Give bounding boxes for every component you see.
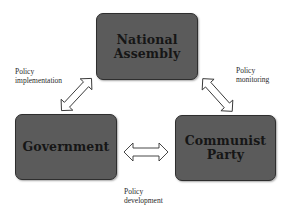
- node-communist-party-line-1: Communist: [185, 134, 266, 148]
- label-policy-implementation-line-2: implementation: [15, 76, 62, 85]
- node-communist-party-line-2: Party: [185, 148, 266, 162]
- arrow-policy-development: [124, 143, 168, 161]
- arrow-policy-monitoring: [197, 73, 238, 116]
- label-policy-monitoring: Policy monitoring: [236, 66, 269, 84]
- node-national-assembly-line-1: National: [114, 33, 181, 47]
- node-government: Government: [15, 114, 117, 180]
- label-policy-development-line-2: development: [124, 196, 163, 205]
- label-policy-development: Policy development: [124, 187, 163, 205]
- node-communist-party: Communist Party: [175, 115, 276, 181]
- label-policy-monitoring-line-1: Policy: [236, 66, 269, 75]
- node-national-assembly: National Assembly: [96, 13, 198, 80]
- label-policy-monitoring-line-2: monitoring: [236, 75, 269, 84]
- label-policy-implementation: Policy implementation: [15, 67, 62, 85]
- label-policy-implementation-line-1: Policy: [15, 67, 62, 76]
- label-policy-development-line-1: Policy: [124, 187, 163, 196]
- node-government-line-1: Government: [23, 140, 110, 154]
- node-national-assembly-line-2: Assembly: [114, 47, 181, 61]
